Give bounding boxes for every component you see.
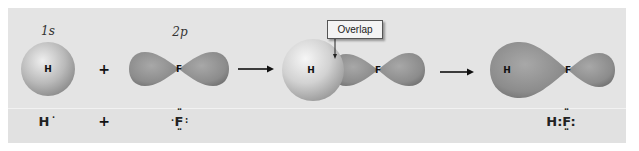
arrow-icon (440, 69, 474, 76)
s-orbital-label: 1s (41, 24, 55, 38)
overlapping-orbitals (282, 39, 425, 101)
overlap-callout-label: Overlap (337, 24, 372, 35)
lewis-hf-top-pair: ·· (564, 106, 568, 114)
lewis-hf-bottom-pair: ·· (564, 126, 568, 134)
orbital-diagram (0, 0, 639, 151)
hydrogen-nucleus-label: H (503, 65, 511, 75)
plus-sign: + (98, 61, 110, 77)
lewis-hf-product: H:F: (546, 114, 575, 129)
fluorine-nucleus-label: F (565, 65, 571, 75)
lewis-hydrogen: H (39, 114, 50, 129)
hydrogen-nucleus-label: H (44, 64, 52, 74)
fluorine-nucleus-label: F (375, 65, 381, 75)
p-orbital-label: 2p (172, 25, 187, 39)
lewis-fluorine-bottom-pair: ·· (177, 126, 181, 134)
overlap-callout: Overlap (327, 20, 383, 39)
lewis-fluorine-top-pair: ·· (177, 106, 181, 114)
lewis-fluorine-right-pair: : (185, 117, 187, 125)
fluorine-nucleus-label: F (176, 64, 182, 74)
hydrogen-nucleus-label: H (307, 65, 315, 75)
lewis-hydrogen-dot: · (52, 114, 54, 122)
lewis-fluorine-left-dot: · (171, 117, 173, 125)
lewis-plus-sign: + (98, 113, 110, 129)
arrow-icon (238, 66, 274, 73)
